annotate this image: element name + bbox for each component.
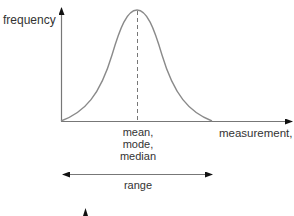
x-axis-label-text: measurement,: [219, 127, 294, 139]
x-axis-label: measurement, x: [219, 127, 294, 139]
median-label: median: [112, 150, 164, 162]
center-labels: mean, mode, median: [112, 126, 164, 162]
y-axis-label: frequency: [3, 14, 56, 26]
mode-label: mode,: [112, 138, 164, 150]
bell-curve: [61, 10, 212, 121]
partial-axis-arrow-icon: [83, 208, 88, 216]
range-label: range: [112, 179, 164, 191]
mean-label: mean,: [112, 126, 164, 138]
